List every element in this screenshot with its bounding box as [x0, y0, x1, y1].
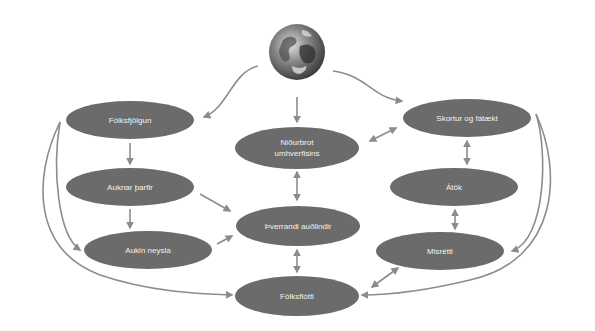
node-folksfjolgun: Fólksfjölgun [66, 101, 194, 139]
node-thverrandi-audlindir: Þverrandi auðlindir [236, 206, 360, 246]
node-label: Auknar þarfir [107, 183, 153, 192]
node-label: Skortur og fátækt [436, 114, 498, 123]
node-auknar-tharfir: Auknar þarfir [66, 168, 194, 206]
node-misretti: Misrétti [376, 232, 504, 270]
edge-aukin-thverrandi [217, 236, 232, 244]
diagram-svg: Fólksfjölgun Auknar þarfir Aukin neysla … [0, 0, 595, 331]
node-label: Þverrandi auðlindir [265, 222, 332, 231]
node-atok: Átök [390, 168, 518, 206]
edge-nidurbrot-skortur [370, 128, 396, 141]
node-aukin-neysla: Aukin neysla [84, 231, 212, 269]
globe-icon [269, 24, 325, 80]
node-nidurbrot-umhverfisins: Niðurbrot umhverfisins [235, 127, 359, 169]
node-label: Fólksfjölgun [109, 116, 152, 125]
node-label: Átök [446, 183, 463, 192]
node-label: Fólksflótti [280, 292, 314, 301]
edge-globe-folksfjolgun [204, 66, 258, 117]
node-label-line2: umhverfisins [275, 149, 320, 158]
node-label: Misrétti [427, 247, 453, 256]
node-folksflotti: Fólksflótti [235, 276, 359, 316]
node-skortur-og-fataekt: Skortur og fátækt [403, 99, 531, 137]
edge-auknar-thverrandi [200, 194, 230, 211]
diagram-canvas: Fólksfjölgun Auknar þarfir Aukin neysla … [0, 0, 595, 331]
edge-folksfjolgun-folksflotti [43, 122, 232, 295]
node-label: Aukin neysla [125, 246, 171, 255]
node-label: Niðurbrot [281, 138, 315, 147]
edge-misretti-folksflotti [372, 268, 398, 287]
edge-globe-skortur [333, 71, 402, 101]
